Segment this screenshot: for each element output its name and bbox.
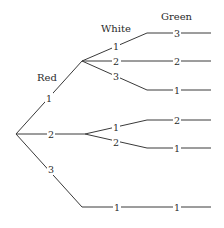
green-labels: 3 2 1 2 1 1 <box>173 27 181 213</box>
white-labels: 1 2 3 1 2 1 <box>112 40 121 213</box>
tree-diagram: Red White Green 1 2 3 1 2 <box>0 0 224 228</box>
red-label-3: 3 <box>48 164 54 175</box>
white-label-r2-2: 2 <box>113 137 119 148</box>
white-label-r1-2: 2 <box>113 56 119 67</box>
header-white: White <box>101 23 131 34</box>
green-label-4: 2 <box>174 115 180 126</box>
green-label-1: 3 <box>174 28 180 39</box>
green-label-5: 1 <box>174 143 180 154</box>
header-green: Green <box>161 11 193 22</box>
white-label-r3-1: 1 <box>114 202 120 213</box>
green-label-6: 1 <box>174 202 180 213</box>
red-label-1: 1 <box>46 93 52 104</box>
green-label-2: 2 <box>174 56 180 67</box>
red-label-2: 2 <box>48 129 54 140</box>
white-label-r1-3: 3 <box>113 71 119 82</box>
green-label-3: 1 <box>174 85 180 96</box>
header-red: Red <box>37 72 57 83</box>
white-label-r1-1: 1 <box>113 41 119 52</box>
white-label-r2-1: 1 <box>113 122 119 133</box>
